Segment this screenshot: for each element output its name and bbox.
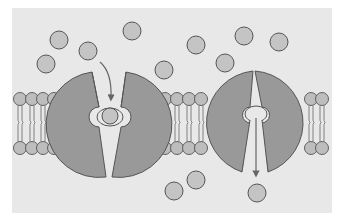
bound-solute	[102, 108, 118, 124]
solute-molecule	[155, 61, 173, 79]
solute-molecule	[123, 22, 141, 40]
solute-molecule	[216, 54, 234, 72]
carrier-protein-diagram	[0, 0, 340, 222]
solute-molecule	[248, 184, 266, 202]
solute-molecule	[187, 36, 205, 54]
solute-molecule	[270, 33, 288, 51]
solute-molecule	[165, 182, 183, 200]
solute-molecule	[50, 31, 68, 49]
solute-molecule	[187, 171, 205, 189]
solute-molecule	[79, 42, 97, 60]
solute-molecule	[235, 27, 253, 45]
solute-molecule	[37, 55, 55, 73]
